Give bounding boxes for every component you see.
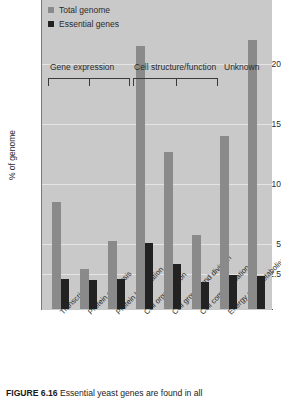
bar-total-unknown xyxy=(248,40,257,309)
bar-total-cell-communication xyxy=(192,235,201,309)
bracket-cell-structure xyxy=(133,78,218,86)
legend-swatch-total-genome xyxy=(48,7,54,13)
bar-essential-cell-communication xyxy=(201,282,209,309)
legend-swatch-essential-genes xyxy=(48,21,54,27)
group-label-unknown: Unknown xyxy=(224,62,259,72)
bar-essential-cell-growth-and-division xyxy=(173,264,181,309)
bar-total-energy-and-metabolism xyxy=(220,136,229,309)
legend-item-total-genome: Total genome xyxy=(48,4,119,16)
y-axis-title: % of genome xyxy=(7,115,17,195)
bar-essential-protein-localization xyxy=(117,279,125,309)
figure-container: % of genome 20 15 10 5 2.5 Total genome … xyxy=(0,0,281,401)
bar-group-container xyxy=(42,0,272,310)
bar-total-transcription xyxy=(52,202,61,309)
bar-essential-unknown xyxy=(257,276,265,309)
legend: Total genome Essential genes xyxy=(48,4,119,32)
bar-essential-transcription xyxy=(61,279,69,309)
bar-total-cell-growth-and-division xyxy=(164,152,173,309)
x-axis-labels: Transcription Protein synthesis Protein … xyxy=(42,310,281,380)
group-label-gene-expression: Gene expression xyxy=(50,62,114,72)
figure-number: FIGURE 6.16 xyxy=(6,388,58,398)
bar-total-protein-synthesis xyxy=(80,269,89,309)
bar-essential-cell-organization xyxy=(145,243,153,309)
figure-caption-text: Essential yeast genes are found in all xyxy=(60,388,202,398)
plot-area: Total genome Essential genes Gene expres… xyxy=(42,0,272,310)
legend-label-essential-genes: Essential genes xyxy=(59,20,119,29)
legend-label-total-genome: Total genome xyxy=(59,6,110,15)
group-label-cell-structure: Cell structure/function xyxy=(134,62,216,72)
bracket-gene-expression xyxy=(48,78,130,86)
bar-essential-energy-and-metabolism xyxy=(229,275,237,309)
bar-essential-protein-synthesis xyxy=(89,280,97,309)
legend-item-essential-genes: Essential genes xyxy=(48,18,119,30)
bar-total-protein-localization xyxy=(108,241,117,309)
figure-caption: FIGURE 6.16 Essential yeast genes are fo… xyxy=(6,388,278,399)
